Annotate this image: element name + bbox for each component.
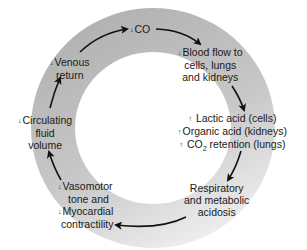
down-arrow-icon: ↓	[58, 183, 62, 190]
up-arrow-icon: ↑	[189, 115, 193, 122]
node-circulating: ↓Circulating fluid volume	[18, 114, 72, 151]
down-arrow-icon: ↓	[130, 26, 134, 33]
node-venous: ↓Venous return	[50, 56, 90, 81]
down-arrow-icon: ↓	[178, 49, 182, 56]
down-arrow-icon: ↓	[58, 208, 62, 215]
down-arrow-icon: ↓	[18, 117, 22, 124]
node-acidosis: Respiratory and metabolic acidosis	[184, 182, 249, 218]
up-arrow-icon: ↑	[178, 128, 182, 135]
node-blood-flow: ↓Blood flow to cells, lungs and kidneys	[178, 46, 243, 83]
node-vasomotor: ↓Vasomotor tone and ↓Myocardial contract…	[58, 180, 114, 230]
node-co: ↓CO	[130, 23, 150, 36]
up-arrow-icon: ↑	[180, 141, 184, 148]
down-arrow-icon: ↓	[50, 59, 54, 66]
node-acids: ↑ Lactic acid (cells) ↑Organic acid (kid…	[178, 112, 287, 151]
